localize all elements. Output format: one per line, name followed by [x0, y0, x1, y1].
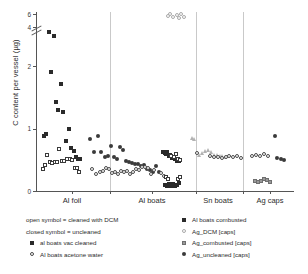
data-point	[178, 175, 182, 179]
data-point	[220, 156, 224, 160]
data-point	[195, 151, 199, 155]
data-point	[273, 134, 277, 138]
data-point	[88, 137, 92, 141]
data-point	[72, 149, 76, 153]
y-tick-mark	[33, 14, 36, 15]
y-tick-mark	[33, 66, 36, 67]
x-tick-mark	[196, 191, 197, 194]
y-tick-mark	[33, 129, 36, 130]
y-tick-label: 6	[17, 11, 31, 18]
legend-swatch	[178, 218, 190, 222]
data-point	[166, 177, 170, 181]
x-category-label-3: Ag caps	[240, 196, 300, 205]
legend-label: Ag_uncleaned [caps]	[190, 251, 250, 258]
chart-figure: C content per vessel (µg) 64210 Al foilA…	[0, 0, 308, 274]
data-point	[52, 34, 56, 38]
legend-label: Ag_DCM [caps]	[190, 228, 235, 235]
data-point	[78, 157, 82, 161]
data-point	[49, 70, 53, 74]
legend-right-column: Al boats combustedAg_DCM [caps]Ag_combus…	[178, 214, 304, 260]
x-category-label-2: Sn boats	[188, 196, 248, 205]
data-point	[70, 158, 74, 162]
legend-left-column: open symbol = cleaned with DCMclosed sym…	[26, 214, 166, 260]
legend-swatch	[178, 241, 190, 245]
data-point	[177, 181, 181, 185]
legend-item-right-1[interactable]: Ag_DCM [caps]	[178, 226, 304, 238]
data-point	[54, 100, 58, 104]
data-point	[59, 82, 63, 86]
data-point	[121, 148, 125, 152]
x-category-label-0: Al foil	[42, 196, 102, 205]
y-tick-label: 4	[17, 24, 31, 31]
data-point	[152, 168, 156, 172]
legend-marker-icon	[30, 252, 34, 256]
y-tick-label: 2	[17, 63, 31, 70]
legend-swatch	[26, 241, 38, 245]
data-point	[90, 167, 94, 171]
x-axis-line	[36, 191, 294, 192]
y-tick-mark	[33, 191, 36, 192]
data-point	[43, 163, 47, 167]
data-point	[146, 166, 150, 170]
legend-swatch	[178, 229, 190, 233]
x-tick-mark	[72, 191, 73, 194]
x-category-label-1: Al boats	[122, 196, 182, 205]
x-tick-mark	[110, 191, 111, 194]
legend-marker-icon	[182, 229, 186, 233]
data-point	[45, 153, 49, 157]
chart-legend: open symbol = cleaned with DCMclosed sym…	[26, 214, 304, 272]
legend-note: closed symbol = uncleaned	[26, 226, 166, 238]
legend-label: Ag_combusted [caps]	[190, 239, 252, 246]
data-point	[41, 167, 45, 171]
legend-item-right-2[interactable]: Ag_combusted [caps]	[178, 237, 304, 249]
data-point	[57, 147, 61, 151]
legend-marker-icon	[182, 218, 186, 222]
data-point	[268, 180, 272, 184]
data-point	[44, 132, 48, 136]
data-point	[149, 172, 153, 176]
legend-label: Al boats acetone water	[38, 251, 103, 258]
legend-item-1[interactable]: Al boats acetone water	[26, 249, 166, 261]
data-point	[92, 150, 96, 154]
legend-label: Al boats combusted	[190, 216, 246, 223]
legend-marker-icon	[182, 241, 186, 245]
data-point	[94, 172, 98, 176]
x-tick-mark	[270, 191, 271, 194]
data-point	[55, 160, 59, 164]
data-point	[47, 30, 51, 34]
data-point	[282, 158, 286, 162]
legend-item-0[interactable]: al boats vac cleaned	[26, 237, 166, 249]
legend-swatch	[26, 252, 38, 256]
legend-marker-icon	[182, 252, 186, 256]
data-point	[77, 170, 81, 174]
data-point	[64, 139, 68, 143]
legend-item-right-3[interactable]: Ag_uncleaned [caps]	[178, 249, 304, 261]
y-tick-label: 1	[17, 125, 31, 132]
data-point	[67, 127, 71, 131]
legend-note: open symbol = cleaned with DCM	[26, 214, 166, 226]
data-point	[266, 154, 270, 158]
data-point	[61, 110, 65, 114]
data-point	[192, 137, 196, 141]
x-tick-mark	[152, 191, 153, 194]
x-tick-mark	[243, 191, 244, 194]
legend-item-right-0[interactable]: Al boats combusted	[178, 214, 304, 226]
data-point	[178, 158, 182, 162]
y-tick-label: 0	[17, 188, 31, 195]
data-point	[56, 108, 60, 112]
legend-marker-icon	[30, 241, 34, 245]
data-point	[96, 134, 100, 138]
legend-swatch	[178, 252, 190, 256]
plot-area	[37, 12, 293, 190]
legend-label: al boats vac cleaned	[38, 239, 96, 246]
data-point	[154, 164, 158, 168]
